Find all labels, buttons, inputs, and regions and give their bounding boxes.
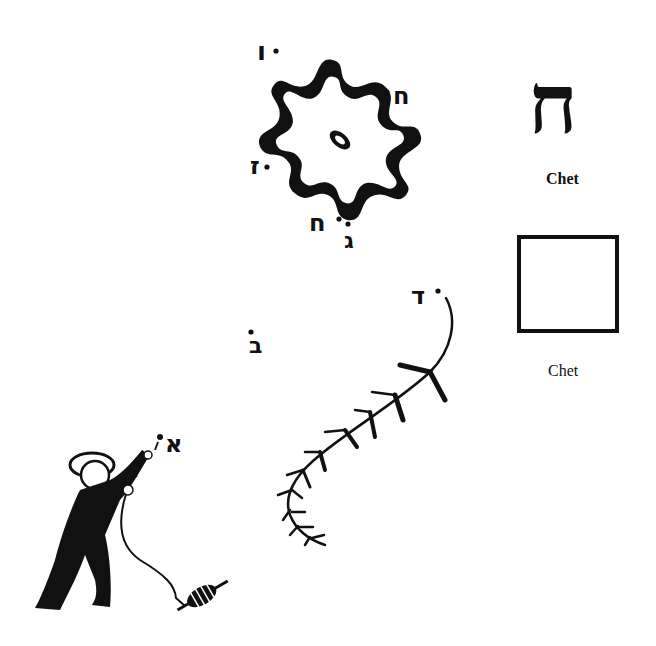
vine-branch-icon — [278, 298, 452, 545]
dot-bottom-1 — [336, 216, 341, 221]
boy-figure-icon — [35, 434, 185, 610]
illustration-canvas — [0, 0, 656, 646]
letter-bet: ב — [249, 335, 262, 357]
letter-alef: א — [165, 432, 182, 456]
dot-bottom-2 — [345, 221, 350, 226]
letter-dalet: ד — [411, 284, 425, 308]
letter-chet-bottom: ח — [309, 211, 326, 235]
letter-gimel: ג — [344, 230, 354, 252]
dot-dalet — [435, 288, 440, 293]
dot-left — [264, 164, 269, 169]
spool-icon — [173, 573, 232, 618]
letter-vav: ו — [257, 38, 266, 64]
letter-zayin: ז — [250, 154, 260, 178]
dot-top-left — [273, 48, 278, 53]
letter-chet-right: ח — [393, 84, 410, 108]
dot-right — [384, 89, 389, 94]
